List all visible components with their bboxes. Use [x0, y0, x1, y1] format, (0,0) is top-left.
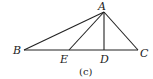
- label-a: A: [97, 0, 106, 13]
- label-d: D: [99, 53, 109, 66]
- label-c: C: [140, 47, 149, 60]
- figure-caption: (c): [79, 66, 93, 77]
- segment-ac: [104, 12, 138, 50]
- segment-ae: [69, 12, 104, 50]
- segment-ab: [24, 12, 104, 50]
- label-e: E: [59, 53, 68, 66]
- label-b: B: [12, 44, 21, 57]
- triangle-diagram: A B C D E (c): [0, 0, 153, 79]
